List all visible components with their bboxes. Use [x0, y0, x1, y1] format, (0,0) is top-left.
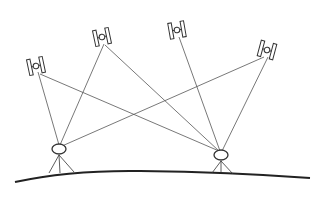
receiver-a: [49, 144, 74, 173]
ground-surface: [15, 171, 310, 182]
receiver-antenna-icon: [52, 144, 66, 154]
tripod-leg: [49, 155, 59, 173]
signal-line-a-sat1: [38, 72, 59, 145]
signal-lines: [38, 37, 268, 151]
satellite-2: [93, 28, 112, 47]
tripod-leg: [59, 155, 60, 173]
satellite-1: [27, 57, 46, 76]
tripod-leg: [212, 161, 221, 173]
satellite-icon: [168, 21, 187, 40]
satellite-4: [257, 40, 277, 60]
signal-line-b-sat2: [105, 45, 219, 151]
receiver-b: [212, 150, 233, 174]
signal-line-b-sat1: [40, 74, 219, 151]
receiver-antenna-icon: [214, 150, 228, 160]
tripod-leg: [221, 161, 233, 174]
satellite-3: [168, 21, 187, 40]
diagram-canvas: [0, 0, 321, 197]
signal-line-a-sat2: [60, 44, 104, 145]
tripod-leg: [59, 155, 74, 172]
signal-line-b-sat4: [222, 57, 268, 151]
satellite-icon: [93, 28, 112, 47]
satellite-icon: [257, 40, 277, 60]
satellite-icon: [27, 57, 46, 76]
signal-line-b-sat3: [179, 37, 220, 151]
